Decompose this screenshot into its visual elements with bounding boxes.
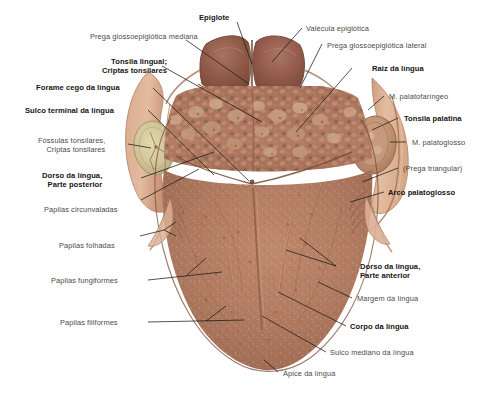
label-text: Prega glossoepiglótica mediana <box>90 32 198 41</box>
label-text: Margem da língua <box>357 294 418 303</box>
label-papilas-fungiformes: Papilas fungiformes <box>51 276 118 285</box>
label-sulco-mediano-da-lingua: Sulco mediano da língua <box>330 348 414 357</box>
label-text: (Prega triangular) <box>403 164 462 173</box>
label-dorso-da-lingua-anterior: Dorso da língua, Parte anterior <box>360 262 420 280</box>
label-m-palatofaringeo: M. palatofaríngeo <box>389 92 448 101</box>
label-corpo-da-lingua: Corpo da língua <box>350 322 409 331</box>
label-text: Papilas circunvaladas <box>44 205 118 214</box>
label-text: Forame cego da língua <box>36 83 120 92</box>
label-m-palatoglosso: M. palatoglosso <box>412 138 465 147</box>
label-text: Dorso da língua, <box>42 171 102 180</box>
label-text: Sulco mediano da língua <box>330 348 414 357</box>
label-text: Dorso da língua, <box>360 262 420 271</box>
label-epiglote: Epiglote <box>199 13 229 22</box>
label-text: Tonsila lingual; <box>111 57 167 66</box>
label-text: Raiz da língua <box>372 64 424 73</box>
label-text: Prega glossoepiglótica lateral <box>327 41 427 50</box>
label-prega-glossoepiglotica-mediana: Prega glossoepiglótica mediana <box>90 32 198 41</box>
label-text: Papilas folhadas <box>59 241 115 250</box>
label-subtext: Criptas tonsilares <box>102 66 167 75</box>
label-raiz-da-lingua: Raiz da língua <box>372 64 424 73</box>
label-text: Ápice da língua <box>283 369 335 378</box>
label-fossulas-tonsilares: Fóssulas tonsilares, Criptas tonsilares <box>38 136 105 154</box>
label-text: Papilas fungiformes <box>51 276 118 285</box>
label-valecula-epiglotica: Valécula epiglótica <box>306 24 369 33</box>
label-tonsila-lingual: Tonsila lingual; Criptas tonsilares <box>102 57 167 75</box>
label-text: Corpo da língua <box>350 322 409 331</box>
foramen-cecum <box>250 180 255 185</box>
label-text: Sulco terminal da língua <box>25 106 114 115</box>
label-text: Papilas filiformes <box>60 318 118 327</box>
label-prega-glossoepiglotica-lateral: Prega glossoepiglótica lateral <box>327 41 427 50</box>
label-text: Tonsila palatina <box>404 114 462 123</box>
label-text: Valécula epiglótica <box>306 24 369 33</box>
label-margem-da-lingua: Margem da língua <box>357 294 418 303</box>
label-apice-da-lingua: Ápice da língua <box>283 369 335 378</box>
label-subtext: Parte posterior <box>42 180 102 189</box>
label-subtext: Parte anterior <box>360 271 420 280</box>
label-papilas-folhadas: Papilas folhadas <box>59 241 115 250</box>
label-papilas-circunvaladas: Papilas circunvaladas <box>44 205 118 214</box>
label-text: M. palatoglosso <box>412 138 465 147</box>
label-subtext: Criptas tonsilares <box>38 145 105 154</box>
label-text: Epiglote <box>199 13 229 22</box>
label-tonsila-palatina: Tonsila palatina <box>404 114 462 123</box>
label-prega-triangular: (Prega triangular) <box>403 164 462 173</box>
tongue-anatomy-illustration <box>0 0 499 401</box>
label-forame-cego-da-lingua: Forame cego da língua <box>36 83 120 92</box>
label-text: Fóssulas tonsilares, <box>38 136 105 145</box>
label-text: Arco palatoglosso <box>388 188 455 197</box>
label-sulco-terminal-da-lingua: Sulco terminal da língua <box>25 106 114 115</box>
label-dorso-da-lingua-posterior: Dorso da língua, Parte posterior <box>42 171 102 189</box>
label-papilas-filiformes: Papilas filiformes <box>60 318 118 327</box>
label-arco-palatoglosso: Arco palatoglosso <box>388 188 455 197</box>
label-text: M. palatofaríngeo <box>389 92 448 101</box>
